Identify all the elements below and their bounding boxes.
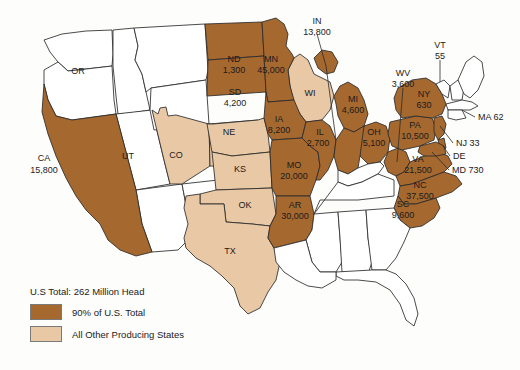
legend-title: U.S Total: 262 Million Head <box>30 286 184 297</box>
legend-row-other: All Other Producing States <box>30 326 184 342</box>
label-wv-value: 3,600 <box>392 79 415 89</box>
label-wv-abbr: WV <box>396 68 411 78</box>
label-sd-abbr: SD <box>229 87 242 97</box>
legend-row-major: 90% of U.S. Total <box>30 304 184 320</box>
label-il-value: 2,700 <box>307 138 330 148</box>
label-tx-abbr: TX <box>224 246 236 256</box>
label-ma-abbr: MA 62 <box>478 112 504 122</box>
label-ny-value: 630 <box>416 100 431 110</box>
label-vt-value: 55 <box>435 51 445 61</box>
label-oh-abbr: OH <box>367 127 381 137</box>
label-ut-abbr: UT <box>122 151 134 161</box>
label-sc-abbr: SC <box>397 199 410 209</box>
label-ny-abbr: NY <box>418 89 431 99</box>
state-fl <box>336 270 418 326</box>
label-va-abbr: VA <box>412 154 423 164</box>
label-nj-abbr: NJ 33 <box>456 138 480 148</box>
label-pa-value: 10,500 <box>401 131 429 141</box>
legend-label-other: All Other Producing States <box>72 329 184 340</box>
label-oh-value: 5,100 <box>363 138 386 148</box>
label-or-abbr: OR <box>71 66 85 76</box>
label-md-abbr: MD 730 <box>452 165 484 175</box>
label-ks-abbr: KS <box>234 164 246 174</box>
state-ma <box>446 100 478 110</box>
label-ia-abbr: IA <box>275 114 284 124</box>
label-mn-abbr: MN <box>264 54 278 64</box>
state-nj <box>434 116 446 140</box>
label-wi-abbr: WI <box>305 88 316 98</box>
label-de-abbr: DE <box>453 151 466 161</box>
label-sd-value: 4,200 <box>224 98 247 108</box>
state-in <box>334 126 364 174</box>
label-co-abbr: CO <box>169 150 183 160</box>
label-pa-abbr: PA <box>409 120 420 130</box>
state-ne <box>207 118 270 156</box>
label-sc-value: 9,600 <box>392 210 415 220</box>
label-mo-value: 20,000 <box>280 171 308 181</box>
label-ar-abbr: AR <box>289 200 302 210</box>
state-ct-ri <box>448 110 466 120</box>
label-nc-abbr: NC <box>414 180 427 190</box>
label-va-value: 21,500 <box>404 165 432 175</box>
label-ia-value: 8,200 <box>268 125 291 135</box>
label-mi-value: 4,600 <box>342 105 365 115</box>
label-mo-abbr: MO <box>287 160 302 170</box>
legend-swatch-major <box>30 304 62 320</box>
label-ca-abbr: CA <box>38 153 51 163</box>
label-ar-value: 30,000 <box>281 211 309 221</box>
legend-label-major: 90% of U.S. Total <box>72 307 145 318</box>
label-mi-abbr: MI <box>348 94 358 104</box>
label-vt-abbr: VT <box>434 40 446 50</box>
label-mn-value: 45,000 <box>257 65 285 75</box>
label-ca-value: 15,800 <box>30 165 58 175</box>
map-legend: U.S Total: 262 Million Head 90% of U.S. … <box>30 286 184 348</box>
us-map-chart: OR CA 15,800 UT CO NE KS OK TX WI ND 1,3… <box>0 0 520 370</box>
label-nd-abbr: ND <box>228 54 241 64</box>
label-ok-abbr: OK <box>238 200 251 210</box>
label-nc-value: 37,500 <box>406 191 434 201</box>
label-nd-value: 1,300 <box>223 65 246 75</box>
label-in-abbr: IN <box>313 16 322 26</box>
label-ne-abbr: NE <box>223 127 236 137</box>
label-il-abbr: IL <box>316 127 324 137</box>
legend-swatch-other <box>30 326 62 342</box>
label-in-value: 13,800 <box>303 27 331 37</box>
